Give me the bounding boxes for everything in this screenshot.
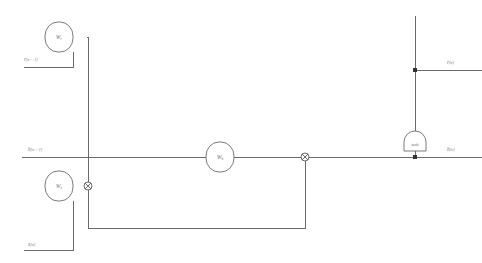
node-weight-x[interactable]: Wx — [45, 171, 73, 201]
junction-sum-input[interactable] — [84, 182, 92, 190]
junction-sum-recurrent[interactable] — [301, 153, 309, 161]
tanh-body — [404, 131, 426, 151]
node-weight-r[interactable]: Wr — [45, 22, 73, 52]
diagram-canvas: Wr Wx Wh tanh — [0, 0, 482, 263]
label-input-r-prev: r[n − 1] — [24, 56, 38, 62]
node-weight-h[interactable]: Wh — [206, 142, 234, 172]
label-output-h: h[n] — [447, 146, 455, 152]
label-output-r: r[n] — [447, 59, 455, 65]
wire-weight-r-output-down — [87, 37, 88, 182]
rnn-cell-diagram: Wr Wx Wh tanh — [0, 0, 482, 263]
tanh-label: tanh — [411, 142, 419, 147]
tap-dot-h-output — [413, 155, 417, 159]
wire-recurrent-feedback — [88, 161, 305, 228]
tap-dot-r-output — [413, 68, 417, 72]
node-activation-tanh[interactable]: tanh — [404, 131, 426, 151]
label-input-h-prev: h[n − 1] — [28, 146, 43, 152]
label-input-x: x[n] — [27, 241, 36, 247]
